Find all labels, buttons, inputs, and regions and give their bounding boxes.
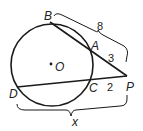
label-p: P bbox=[126, 80, 134, 94]
label-c: C bbox=[89, 81, 98, 95]
brace-pb bbox=[54, 14, 128, 62]
label-b: B bbox=[44, 9, 52, 23]
diagram-canvas: B A O C P D 8 3 2 x bbox=[0, 0, 143, 131]
label-a: A bbox=[90, 39, 99, 53]
secant-diagram: B A O C P D 8 3 2 x bbox=[0, 0, 143, 131]
measure-pa: 3 bbox=[108, 52, 114, 64]
measure-pd: x bbox=[71, 115, 79, 129]
label-o: O bbox=[55, 60, 64, 74]
brace-pd bbox=[17, 95, 127, 116]
measure-pc: 2 bbox=[107, 81, 113, 93]
center-point bbox=[50, 63, 53, 66]
circle-o bbox=[11, 24, 93, 106]
label-d: D bbox=[9, 87, 18, 101]
measure-pb: 8 bbox=[97, 20, 103, 32]
